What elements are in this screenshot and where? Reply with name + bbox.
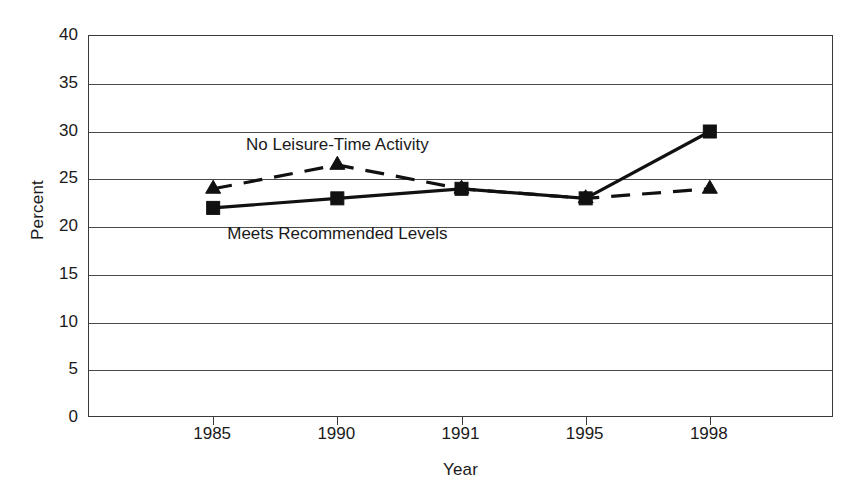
x-axis-tick-label: 1991 [442, 425, 480, 442]
series-layer [89, 36, 834, 418]
data-point-square [579, 192, 592, 205]
data-point-triangle [330, 156, 345, 169]
y-axis-tick-label: 40 [38, 26, 78, 43]
x-axis-tick-label: 1995 [566, 425, 604, 442]
series-annotation-label: Meets Recommended Levels [227, 225, 447, 243]
y-axis-tick-label: 5 [38, 360, 78, 377]
plot-area: No Leisure-Time ActivityMeets Recommende… [88, 35, 833, 417]
x-axis-tick-label: 1985 [193, 425, 231, 442]
data-point-square [207, 201, 220, 214]
x-axis-tick-label: 1990 [317, 425, 355, 442]
data-point-square [455, 182, 468, 195]
x-axis-title: Year [88, 460, 833, 480]
y-axis-tick-label: 30 [38, 122, 78, 139]
series-no-leisure-time-activity [206, 156, 718, 202]
line-chart: Percent 0510152025303540 No Leisure-Time… [0, 0, 853, 501]
y-axis-title: Percent [28, 150, 48, 270]
x-axis-tick-label: 1998 [690, 425, 728, 442]
data-point-square [703, 125, 716, 138]
y-axis-tick-label: 35 [38, 74, 78, 91]
y-axis-tick-label: 25 [38, 169, 78, 186]
series-annotation-label: No Leisure-Time Activity [246, 136, 429, 154]
y-axis-tick-label: 20 [38, 217, 78, 234]
data-point-square [331, 192, 344, 205]
y-axis-tick-label: 10 [38, 313, 78, 330]
data-point-triangle [702, 180, 717, 193]
y-axis-tick-label: 15 [38, 265, 78, 282]
y-axis-tick-label: 0 [38, 408, 78, 425]
